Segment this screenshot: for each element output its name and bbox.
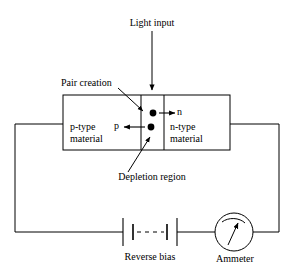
ammeter-symbol — [215, 213, 253, 251]
carrier-dots — [148, 110, 157, 131]
circuit-schematic-svg — [0, 0, 294, 278]
carrier-p-label: p — [114, 121, 119, 132]
photodiode-circuit-diagram: Light input Pair creation p-type materia… — [0, 0, 294, 278]
n-type-material-label-line2: material — [170, 134, 203, 145]
carrier-n-label: n — [177, 107, 182, 118]
electron-dot — [150, 110, 157, 117]
depletion-region-leader-line — [128, 137, 150, 172]
pair-creation-label: Pair creation — [61, 78, 112, 89]
ammeter-label: Ammeter — [216, 254, 254, 265]
hole-dot — [148, 124, 155, 131]
ammeter-needle — [228, 223, 238, 245]
depletion-region-label: Depletion region — [118, 172, 185, 183]
depletion-region-boundaries — [141, 95, 164, 150]
reverse-bias-label: Reverse bias — [125, 252, 176, 263]
pair-creation-leader-line — [118, 88, 143, 111]
ammeter-scale-arc — [222, 219, 245, 223]
n-type-material-label-line1: n-type — [170, 122, 196, 133]
battery-symbol — [117, 218, 183, 246]
light-input-label: Light input — [130, 18, 175, 29]
p-type-material-label-line1: p-type — [70, 122, 96, 133]
p-type-material-label-line2: material — [70, 134, 103, 145]
